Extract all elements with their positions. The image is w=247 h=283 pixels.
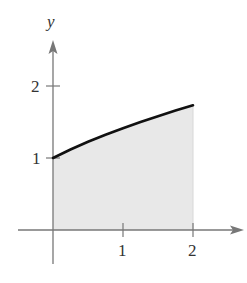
shaded-area	[53, 105, 193, 230]
y-tick-label-2: 2	[31, 77, 40, 96]
y-axis-label: y	[45, 12, 55, 31]
y-tick-label-1: 1	[32, 149, 41, 168]
x-tick-label-2: 2	[188, 241, 197, 260]
chart-canvas: y 1 2 1 2	[0, 0, 247, 283]
x-tick-label-1: 1	[118, 241, 127, 260]
